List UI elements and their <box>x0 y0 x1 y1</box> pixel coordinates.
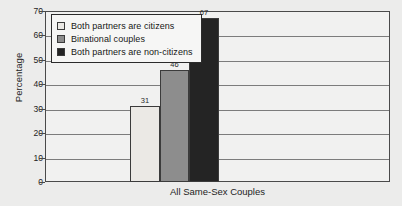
bar <box>160 70 190 182</box>
x-axis-label: All Same-Sex Couples <box>45 186 390 197</box>
bar <box>130 106 160 182</box>
legend-item-label: Both partners are non-citizens <box>71 47 193 57</box>
legend-swatch-icon <box>57 22 65 30</box>
legend-item: Binational couples <box>57 32 193 45</box>
legend-item-label: Both partners are citizens <box>71 21 174 31</box>
chart-legend: Both partners are citizensBinational cou… <box>51 14 202 63</box>
bar-chart: Percentage 010203040506070 314667 Both p… <box>0 0 402 206</box>
legend-item: Both partners are citizens <box>57 19 193 32</box>
legend-item-label: Binational couples <box>71 34 145 44</box>
legend-swatch-icon <box>57 48 65 56</box>
legend-swatch-icon <box>57 35 65 43</box>
y-axis-tick-mark <box>39 182 45 183</box>
legend-item: Both partners are non-citizens <box>57 45 193 58</box>
